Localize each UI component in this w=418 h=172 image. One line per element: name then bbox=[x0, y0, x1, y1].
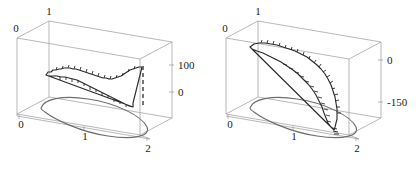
right-plot-panel: 0 1 0 1 2 0 -150 bbox=[209, 0, 418, 172]
right-label-x-2: 2 bbox=[354, 142, 360, 154]
left-label-x-1: 1 bbox=[82, 130, 88, 142]
right-label-z-hi: 0 bbox=[387, 54, 393, 66]
box-edge-top-back bbox=[258, 21, 381, 42]
right-z-ticks bbox=[378, 60, 383, 102]
left-label-x-0: 0 bbox=[18, 118, 24, 130]
curve-right-descent bbox=[133, 67, 142, 107]
box-edge-bottom-front bbox=[17, 114, 140, 135]
left-label-z-lo: 0 bbox=[178, 86, 184, 98]
left-plot-panel: 0 1 0 1 2 100 0 bbox=[0, 0, 209, 172]
box-edge-top-front bbox=[17, 38, 140, 59]
box-edge-top-right-slant bbox=[349, 42, 381, 59]
box-edge-top-right-slant bbox=[140, 42, 172, 59]
right-plot-svg: 0 1 0 1 2 0 -150 bbox=[209, 0, 418, 172]
right-label-x-1: 1 bbox=[291, 130, 297, 142]
right-label-x-0: 0 bbox=[227, 118, 233, 130]
box-edge-top-left-slant bbox=[226, 21, 258, 38]
left-label-x-2: 2 bbox=[145, 142, 151, 154]
box-edge-top-left-slant bbox=[17, 21, 49, 38]
box-edge-bottom-back bbox=[49, 97, 172, 118]
right-label-y-far: 1 bbox=[255, 5, 261, 17]
box-edge-bottom-right-slant bbox=[140, 118, 172, 135]
left-label-y-top: 0 bbox=[13, 22, 19, 34]
box-edge-bottom-right-slant bbox=[349, 118, 381, 135]
projection-ellipse-curve bbox=[250, 97, 357, 137]
left-floor-projection bbox=[41, 97, 148, 137]
right-space-curve bbox=[250, 40, 341, 134]
right-floor-projection bbox=[250, 97, 357, 137]
box-edge-top-back bbox=[49, 21, 172, 42]
right-label-y-top: 0 bbox=[222, 22, 228, 34]
figure-stage: 0 1 0 1 2 100 0 bbox=[0, 0, 418, 172]
box-edge-bottom-front bbox=[226, 114, 349, 135]
left-bounding-box bbox=[17, 21, 172, 139]
left-label-z-hi: 100 bbox=[178, 59, 195, 71]
left-space-curve bbox=[46, 65, 143, 107]
projection-ellipse-curve bbox=[41, 97, 148, 137]
right-label-z-lo: -150 bbox=[387, 96, 408, 108]
curve-outer-branch bbox=[250, 43, 337, 130]
curve-upper-sawtooth bbox=[56, 65, 135, 79]
left-plot-svg: 0 1 0 1 2 100 0 bbox=[0, 0, 209, 172]
left-z-ticks bbox=[169, 65, 174, 92]
left-label-y-far: 1 bbox=[46, 5, 52, 17]
box-edge-bottom-back bbox=[258, 97, 381, 118]
